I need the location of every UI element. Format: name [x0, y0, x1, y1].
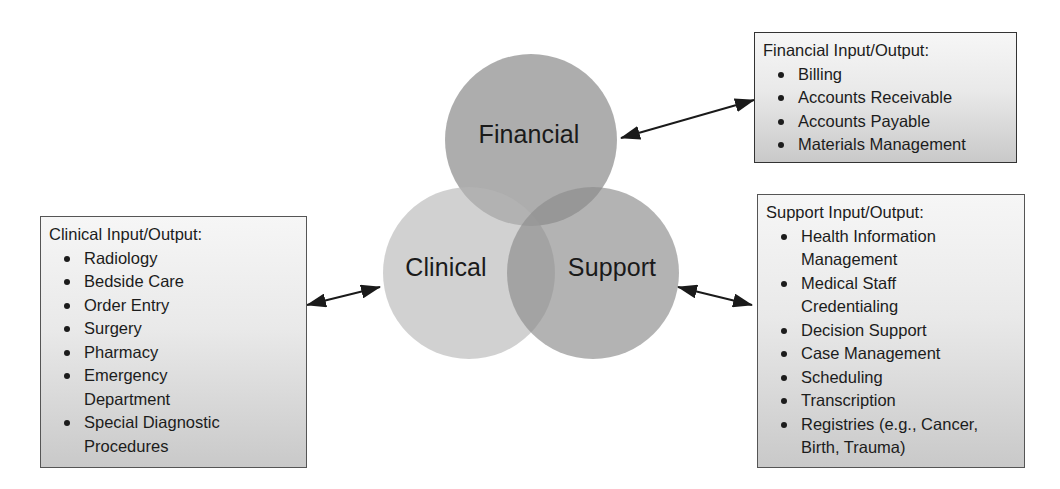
list-item: Pharmacy: [62, 341, 298, 365]
list-item-label: Health Information Management: [801, 227, 936, 269]
list-item: Registries (e.g., Cancer, Birth, Trauma): [779, 413, 1011, 460]
list-item: Bedside Care: [62, 270, 298, 294]
bullet-icon: [781, 351, 787, 357]
support-box-title: Support Input/Output:: [766, 201, 1016, 225]
list-item: Case Management: [779, 342, 1016, 366]
list-item-label: Case Management: [801, 344, 940, 362]
bullet-icon: [64, 303, 70, 309]
clinical-io-box: Clinical Input/Output: Radiology Bedside…: [40, 216, 307, 468]
list-item-label: Accounts Receivable: [798, 88, 952, 106]
list-item-label: Decision Support: [801, 321, 927, 339]
clinical-box-title: Clinical Input/Output:: [49, 223, 298, 247]
financial-arrow: [621, 100, 754, 138]
list-item: Billing: [776, 63, 1008, 87]
bullet-icon: [64, 326, 70, 332]
list-item-label: Transcription: [801, 391, 896, 409]
bullet-icon: [781, 398, 787, 404]
list-item: Health Information Management: [779, 225, 1001, 272]
clinical-circle-label: Clinical: [405, 253, 486, 282]
list-item-label: Scheduling: [801, 368, 883, 386]
financial-box-title: Financial Input/Output:: [763, 39, 1008, 63]
list-item-label: Registries (e.g., Cancer, Birth, Trauma): [801, 415, 978, 457]
bullet-icon: [778, 142, 784, 148]
list-item-label: Emergency Department: [84, 366, 170, 408]
list-item-label: Materials Management: [798, 135, 966, 153]
list-item: Order Entry: [62, 294, 298, 318]
bullet-icon: [781, 422, 787, 428]
bullet-icon: [64, 279, 70, 285]
bullet-icon: [781, 375, 787, 381]
list-item: Emergency Department: [62, 364, 214, 411]
bullet-icon: [781, 328, 787, 334]
list-item-label: Radiology: [84, 249, 157, 267]
financial-items-list: Billing Accounts Receivable Accounts Pay…: [763, 63, 1008, 157]
list-item: Accounts Receivable: [776, 86, 1008, 110]
list-item: Materials Management: [776, 133, 1008, 157]
support-items-list: Health Information Management Medical St…: [766, 225, 1016, 460]
list-item-label: Pharmacy: [84, 343, 158, 361]
list-item: Decision Support: [779, 319, 1016, 343]
financial-io-box: Financial Input/Output: Billing Accounts…: [754, 32, 1017, 163]
financial-circle-label: Financial: [479, 120, 580, 149]
list-item: Radiology: [62, 247, 298, 271]
list-item-label: Surgery: [84, 319, 142, 337]
list-item: Surgery: [62, 317, 298, 341]
support-io-box: Support Input/Output: Health Information…: [757, 194, 1025, 468]
list-item-label: Medical Staff Credentialing: [801, 274, 898, 316]
clinical-items-list: Radiology Bedside Care Order Entry Surge…: [49, 247, 298, 459]
list-item: Special Diagnostic Procedures: [62, 411, 274, 458]
list-item-label: Bedside Care: [84, 272, 184, 290]
list-item-label: Special Diagnostic Procedures: [84, 413, 220, 455]
support-circle-label: Support: [568, 253, 656, 282]
list-item: Transcription: [779, 389, 1016, 413]
list-item: Accounts Payable: [776, 110, 1008, 134]
list-item-label: Order Entry: [84, 296, 169, 314]
venn-diagram-canvas: Financial Clinical Support Clinical Inpu…: [0, 0, 1060, 489]
bullet-icon: [778, 119, 784, 125]
bullet-icon: [64, 256, 70, 262]
list-item-label: Accounts Payable: [798, 112, 930, 130]
bullet-icon: [778, 95, 784, 101]
list-item-label: Billing: [798, 65, 842, 83]
bullet-icon: [781, 234, 787, 240]
bullet-icon: [64, 350, 70, 356]
support-arrow: [678, 287, 752, 305]
bullet-icon: [781, 281, 787, 287]
clinical-arrow: [307, 287, 380, 305]
bullet-icon: [64, 373, 70, 379]
bullet-icon: [64, 420, 70, 426]
list-item: Scheduling: [779, 366, 1016, 390]
bullet-icon: [778, 72, 784, 78]
list-item: Medical Staff Credentialing: [779, 272, 951, 319]
